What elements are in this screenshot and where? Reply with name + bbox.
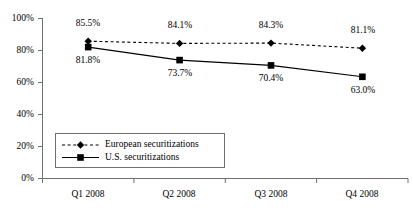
- y-axis-label-20: 20%: [0, 142, 34, 152]
- data-label-us-q1: 81.8%: [58, 56, 118, 66]
- series-markers-us: [85, 44, 366, 80]
- y-axis-label-60: 60%: [0, 78, 34, 88]
- x-axis-ticks: [43, 179, 409, 184]
- data-label-us-q4: 63.0%: [333, 86, 393, 96]
- y-axis-label-80: 80%: [0, 46, 34, 56]
- marker-european-q1: [85, 38, 92, 45]
- marker-us-q3: [268, 62, 275, 69]
- series-line-european: [88, 41, 362, 48]
- legend-label-us: U.S. securitizations: [105, 153, 179, 163]
- data-label-european-q3: 84.3%: [241, 21, 301, 31]
- data-label-european-q2: 84.1%: [150, 21, 210, 31]
- marker-european-q2: [176, 40, 183, 47]
- x-axis-label-q4: Q4 2008: [322, 190, 402, 200]
- x-axis-label-q1: Q1 2008: [48, 190, 128, 200]
- y-axis-label-40: 40%: [0, 110, 34, 120]
- line-chart: 100% 80% 60% 40% 20% 0% Q1 2008 Q2 2008 …: [0, 0, 413, 215]
- data-label-european-q4: 81.1%: [333, 26, 393, 36]
- y-axis-ticks: [38, 19, 43, 179]
- marker-european-q4: [359, 45, 366, 52]
- marker-us-q4: [359, 74, 366, 81]
- data-label-european-q1: 85.5%: [58, 19, 118, 29]
- x-axis-label-q3: Q3 2008: [231, 190, 311, 200]
- y-axis-label-100: 100%: [0, 14, 34, 24]
- marker-european-q3: [267, 39, 274, 46]
- series-markers-european: [85, 38, 367, 52]
- y-axis-label-0: 0%: [0, 174, 34, 184]
- x-axis-label-q2: Q2 2008: [139, 190, 219, 200]
- marker-us-q2: [176, 57, 183, 64]
- data-label-us-q2: 73.7%: [150, 69, 210, 79]
- data-label-us-q3: 70.4%: [241, 74, 301, 84]
- legend-label-european: European securitizations: [105, 140, 199, 150]
- marker-us-q1: [85, 44, 92, 51]
- series-line-us: [88, 47, 362, 77]
